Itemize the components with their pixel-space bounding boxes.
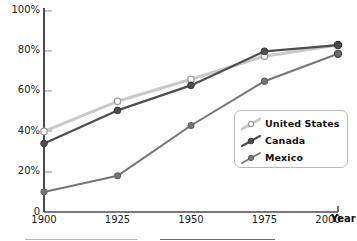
legend-marker-united-states-icon (241, 116, 261, 130)
legend-label-united-states: United States (265, 118, 340, 129)
chart-legend: United States Canada M (234, 110, 348, 168)
x-tick-label-1900: 1900 (24, 215, 64, 225)
legend-item-mexico[interactable]: Mexico (241, 149, 303, 165)
y-tick-label-20: 20% (4, 166, 40, 176)
x-tick-label-1925: 1925 (98, 215, 138, 225)
legend-item-united-states[interactable]: United States (241, 115, 340, 131)
line-chart: 100% 80% 60% 40% 20% 0 1900 1925 1950 19… (0, 0, 357, 241)
legend-marker-canada-icon (241, 133, 261, 147)
x-axis-title: Year (331, 213, 356, 224)
page-rule-right (160, 239, 275, 240)
y-axis-ticks (44, 11, 52, 172)
y-tick-label-60-wrap: 60% (0, 85, 40, 95)
y-tick-label-40: 40% (4, 126, 40, 136)
legend-label-canada: Canada (265, 135, 305, 146)
x-tick-label-1975: 1975 (245, 215, 285, 225)
y-tick-label-100-wrap: 100% (0, 5, 40, 15)
legend-item-canada[interactable]: Canada (241, 132, 305, 148)
y-tick-label-80: 80% (4, 45, 40, 55)
page-rule-left (25, 239, 137, 240)
y-tick-label-80-wrap: 80% (0, 45, 40, 55)
y-tick-label-40-wrap: 40% (0, 126, 40, 136)
y-tick-label-60: 60% (4, 85, 40, 95)
y-tick-label-20-wrap: 20% (0, 166, 40, 176)
legend-marker-mexico-icon (241, 150, 261, 164)
x-tick-label-1950: 1950 (171, 215, 211, 225)
legend-label-mexico: Mexico (265, 152, 303, 163)
chart-screenshot: 100% 80% 60% 40% 20% 0 1900 1925 1950 19… (0, 0, 357, 241)
y-tick-label-100: 100% (4, 5, 40, 15)
